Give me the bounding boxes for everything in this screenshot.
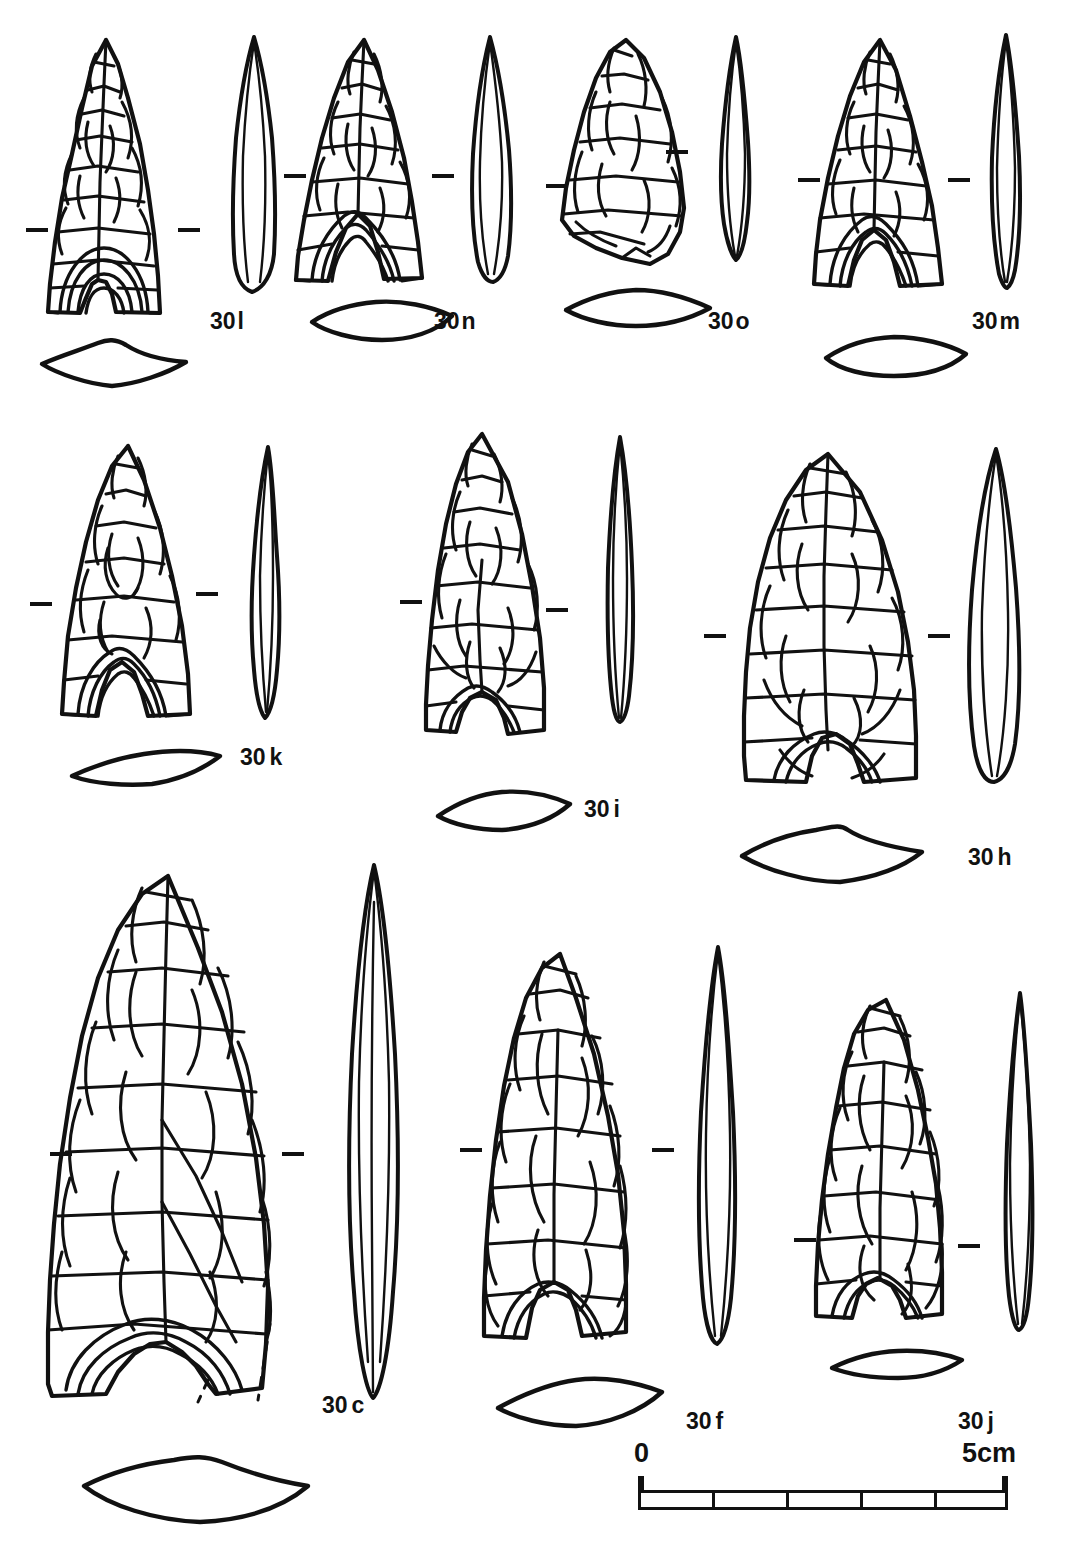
scale-tick-left-30l — [26, 228, 48, 232]
scale-tick-right-30l — [178, 228, 200, 232]
artifact-profile-30i — [598, 434, 646, 726]
artifact-cross-section-30k — [66, 744, 226, 788]
artifact-face-30i — [412, 430, 568, 740]
scale-tick-right-30c — [282, 1152, 304, 1156]
scale-tick-right-30m — [948, 178, 970, 182]
scale-division-3 — [860, 1493, 863, 1507]
specimen-label-30h: 30h — [968, 846, 1012, 869]
artifact-face-30c — [30, 872, 320, 1402]
artifact-face-30j — [812, 996, 960, 1330]
scale-tick-right-30o — [666, 150, 688, 154]
artifact-cross-section-30l — [36, 334, 192, 390]
scale-division-4 — [934, 1493, 937, 1507]
artifact-profile-30n — [462, 34, 524, 284]
specimen-label-30j: 30j — [958, 1410, 994, 1433]
artifact-profile-30f — [690, 944, 746, 1348]
artifact-cross-section-30h — [736, 818, 932, 886]
specimen-label-30c: 30c — [322, 1394, 364, 1417]
scale-tick-left-30h — [704, 634, 726, 638]
figure-plate: 30l — [0, 0, 1078, 1548]
scale-tick-right-30n — [432, 174, 454, 178]
artifact-face-30k — [50, 442, 210, 722]
scale-tick-right-30i — [546, 608, 568, 612]
artifact-face-30f — [478, 950, 646, 1350]
artifact-profile-30j — [998, 990, 1042, 1334]
scale-division-1 — [712, 1493, 715, 1507]
scale-tick-left-30m — [798, 178, 820, 182]
artifact-profile-30m — [982, 32, 1032, 292]
scale-tick-left-30j — [794, 1238, 816, 1242]
artifact-profile-30l — [222, 34, 286, 296]
artifact-cross-section-30i — [432, 786, 574, 834]
specimen-label-30k: 30k — [240, 746, 282, 769]
specimen-label-30n: 30n — [434, 310, 476, 333]
artifact-profile-30h — [960, 446, 1034, 786]
scale-tick-right-30k — [196, 592, 218, 596]
scale-tick-left-30n — [284, 174, 306, 178]
specimen-label-30m: 30m — [972, 310, 1020, 333]
scale-tick-left-30o — [546, 184, 568, 188]
scale-bar-track — [638, 1490, 1008, 1510]
artifact-cross-section-30m — [820, 332, 972, 380]
scale-tick-left-30i — [400, 600, 422, 604]
artifact-profile-30k — [240, 444, 294, 722]
artifact-face-30h — [724, 450, 936, 788]
scale-tick-right-30j — [958, 1244, 980, 1248]
artifact-face-30l — [28, 36, 188, 324]
specimen-label-30f: 30f — [686, 1410, 723, 1433]
specimen-label-30l: 30l — [210, 310, 244, 333]
scale-tick-left-30f — [460, 1148, 482, 1152]
artifact-profile-30o — [712, 34, 766, 264]
scale-tick-right-30h — [928, 634, 950, 638]
scale-bar: 0 5cm — [630, 1440, 1030, 1540]
scale-max-label: 5cm — [962, 1440, 1016, 1467]
artifact-cross-section-30c — [78, 1452, 314, 1526]
artifact-face-30m — [800, 36, 962, 292]
scale-division-2 — [786, 1493, 789, 1507]
scale-tick-left-30c — [50, 1152, 72, 1156]
artifact-profile-30c — [340, 862, 408, 1402]
artifact-cross-section-30j — [826, 1346, 968, 1382]
scale-tick-right-30f — [652, 1148, 674, 1152]
artifact-cross-section-30o — [560, 286, 716, 330]
scale-tick-left-30k — [30, 602, 52, 606]
artifact-cross-section-30f — [492, 1374, 668, 1430]
specimen-label-30o: 30o — [708, 310, 750, 333]
scale-zero-label: 0 — [634, 1440, 649, 1467]
specimen-label-30i: 30i — [584, 798, 620, 821]
artifact-face-30n — [278, 36, 444, 286]
artifact-face-30o — [552, 36, 712, 266]
